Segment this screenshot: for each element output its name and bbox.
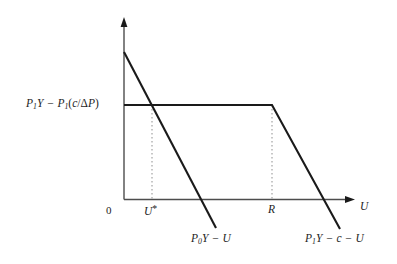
- diagram-canvas: [0, 0, 397, 264]
- curve-right-label: P1Y − c − U: [305, 233, 364, 246]
- y-axis-arrowhead: [121, 17, 128, 27]
- origin-label: 0: [106, 205, 112, 216]
- curve-right-p: P: [305, 232, 312, 244]
- y-threshold-minus: −: [46, 97, 54, 109]
- curve-right-c: c: [336, 232, 341, 244]
- y-threshold-p1: P: [26, 97, 33, 109]
- curve-left-p: P: [191, 232, 198, 244]
- r-label: R: [268, 204, 275, 216]
- y-threshold-delta: Δ: [81, 97, 88, 109]
- curve-left-minus: −: [211, 232, 219, 244]
- y-threshold-label: P1Y − P1(c/ΔP): [26, 98, 99, 111]
- x-axis-group: [124, 196, 355, 203]
- curve-right-minus-1: −: [325, 232, 333, 244]
- u-axis-label: U: [360, 201, 368, 213]
- y-axis-group: [121, 17, 128, 200]
- y-threshold-p: P: [88, 97, 95, 109]
- curve-left-y: Y: [202, 232, 208, 244]
- u-star-label: U*: [144, 204, 157, 217]
- curve-right-minus-2: −: [344, 232, 352, 244]
- curve-left-u: U: [222, 232, 230, 244]
- curve-p0y-minus-u: [124, 52, 216, 228]
- y-threshold-paren-close: ): [95, 97, 99, 109]
- payoff-diagram-figure: P1Y − P1(c/ΔP) 0 U* R U P0Y − U P1Y − c …: [0, 0, 397, 264]
- y-threshold-y: Y: [37, 97, 43, 109]
- curve-left-label: P0Y − U: [191, 233, 231, 246]
- curve-right-y: Y: [316, 232, 322, 244]
- x-axis-arrowhead: [345, 196, 355, 203]
- u-star-superscript: *: [152, 203, 157, 214]
- curve-right-u: U: [356, 232, 364, 244]
